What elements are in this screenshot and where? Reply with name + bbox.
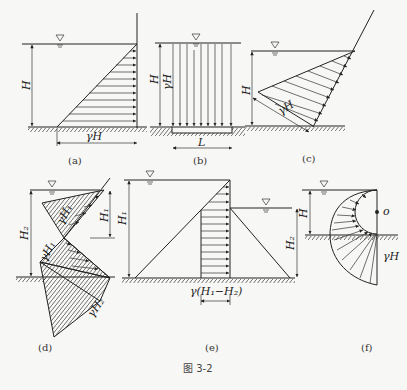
length-label: L [197,136,205,149]
figure-caption: 图 3-2 [183,363,213,374]
bottom-plate [172,127,232,133]
height-label: H [240,85,253,96]
h2-label: H₂ [18,226,31,241]
pressure-triangle-edge [57,44,137,127]
h2-label: H₂ [284,236,297,251]
ground-hatch [16,278,46,282]
center-point [375,210,379,214]
pressure-arrows [201,187,229,273]
upstream-pressure-edge [135,180,230,278]
h1-label: H₁ [98,208,111,223]
water-level-icon [320,181,328,194]
height-label: H [148,74,161,85]
hydrostatic-pressure-diagrams: H γH (a) H γH L (b) [0,0,407,390]
curved-surface [355,190,377,234]
height-label: H [20,80,33,91]
pressure-label: γH [161,73,174,90]
pressure-label: γH [86,130,103,143]
panel-c: H γH (c) [240,10,374,164]
water-level-icon [192,34,200,46]
panel-caption: (d) [38,342,52,353]
center-label: o [383,205,390,218]
panel-f: o H γH (f) [297,181,400,353]
water-level-icon [56,35,64,47]
upper-pressure-triangle [42,190,104,238]
panel-caption: (e) [205,342,219,353]
ground-hatch [305,236,398,240]
pressure-label: γH [383,250,400,263]
h1-label: H₁ [116,211,129,226]
panel-a: H γH (a) [20,13,147,166]
net-pressure-label: γ(H₁−H₂) [190,285,242,298]
ground-hatch [245,127,345,131]
water-level-icon [146,171,154,184]
panel-caption: (a) [68,155,82,166]
height-label: H [297,208,310,219]
downstream-pressure-edge [230,208,290,278]
panel-caption: (b) [193,155,207,166]
panel-e: H₁ H₂ γ(H₁−H₂) (e) [116,171,297,353]
water-level-icon [262,199,270,212]
pressure-triangle-edge [258,51,355,126]
panel-b: H γH L (b) [148,34,245,166]
pressure-arrows [173,44,231,126]
ground-hatch [122,279,295,283]
water-level-icon [48,181,56,194]
panel-caption: (c) [302,153,316,164]
pressure-label: γH [276,98,297,118]
inclined-wall [313,10,374,127]
panel-caption: (f) [361,342,373,353]
panel-d: H₂ H₁ γH₁ γH₁ γH₂ (d) [16,178,115,353]
pressure-arrows [63,51,136,121]
water-level-icon [271,42,279,55]
